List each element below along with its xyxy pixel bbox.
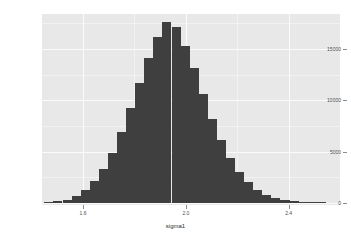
histogram-bar — [289, 201, 298, 203]
histogram-bar — [317, 202, 326, 203]
x-axis-tick-label: 2.0 — [182, 210, 189, 216]
histogram-bar — [217, 140, 226, 203]
histogram-figure: 050001000015000 1.62.02.4 sigma1 — [0, 0, 351, 244]
x-axis-tick-label: 2.4 — [285, 210, 292, 216]
histogram-bar — [271, 198, 280, 203]
y-axis-tick-mark — [343, 100, 347, 101]
histogram-bar — [63, 200, 72, 203]
histogram-bar — [298, 202, 307, 203]
histogram-bar — [280, 200, 289, 203]
y-axis-tick-mark — [343, 49, 347, 50]
histogram-bar — [72, 196, 81, 203]
histogram-bar — [81, 190, 90, 203]
x-axis-tick-mark — [186, 205, 187, 209]
y-axis-tick-label: 15000 — [327, 46, 341, 52]
histogram-bar — [117, 132, 126, 203]
y-axis-tick-mark — [343, 152, 347, 153]
histogram-bar — [208, 119, 217, 203]
x-axis-label: sigma1 — [0, 223, 351, 229]
histogram-bar — [262, 195, 271, 203]
histogram-bar — [126, 108, 135, 203]
histogram-bar — [53, 201, 62, 203]
histogram-bar — [181, 46, 190, 203]
x-axis-tick-mark — [83, 205, 84, 209]
y-axis-tick-label: 10000 — [327, 97, 341, 103]
y-axis-tick-label: 5000 — [330, 149, 341, 155]
histogram-bar — [190, 68, 199, 203]
histogram-bar — [144, 58, 153, 203]
histogram-bar — [172, 27, 181, 203]
histogram-bar — [44, 202, 53, 203]
histogram-bar — [226, 158, 235, 203]
x-axis-tick-label: 1.6 — [80, 210, 87, 216]
y-axis-tick-mark — [343, 203, 347, 204]
histogram-bar — [244, 182, 253, 203]
histogram-bar — [99, 169, 108, 203]
histogram-bar — [108, 153, 117, 203]
histogram-bars — [42, 14, 340, 205]
histogram-bar — [135, 83, 144, 203]
histogram-bar — [199, 94, 208, 203]
x-axis-tick-mark — [289, 205, 290, 209]
histogram-bar — [153, 37, 162, 203]
histogram-bar — [162, 22, 171, 203]
y-axis-tick-label: 0 — [338, 200, 341, 206]
histogram-bar — [235, 172, 244, 203]
plot-panel — [42, 14, 340, 205]
histogram-bar — [253, 190, 262, 203]
histogram-bar — [308, 202, 317, 203]
histogram-bar — [90, 181, 99, 203]
